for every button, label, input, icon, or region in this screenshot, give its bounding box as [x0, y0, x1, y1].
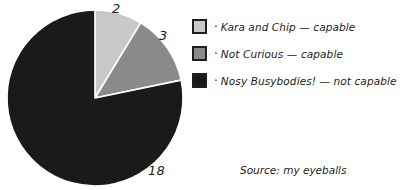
chart-legend: · Kara and Chip — capable · Not Curious … [192, 13, 404, 94]
legend-label: Kara and Chip — capable [221, 21, 356, 33]
legend-bullet-icon: · [214, 21, 218, 33]
pie-value-label-kara-and-chip: 2 [112, 1, 120, 16]
legend-swatch-icon [192, 73, 207, 88]
legend-bullet-icon: · [214, 48, 218, 60]
pie-slice-group [7, 10, 183, 186]
pie-value-label-nosy-busybodies: 18 [148, 163, 165, 178]
legend-bullet-icon: · [214, 75, 218, 87]
legend-item-kara-and-chip[interactable]: · Kara and Chip — capable [192, 13, 404, 40]
source-note: Source: my eyeballs [240, 164, 347, 176]
legend-label: Nosy Busybodies! — not capable [221, 75, 397, 87]
pie-value-label-not-curious: 3 [159, 28, 167, 43]
legend-item-not-curious[interactable]: · Not Curious — capable [192, 40, 404, 67]
pie-chart-figure: capable? 2 3 18 · Kara and Chip — capabl… [0, 0, 404, 190]
legend-swatch-icon [192, 19, 207, 34]
pie-plot-area: 2 3 18 [0, 0, 190, 190]
legend-label: Not Curious — capable [221, 48, 343, 60]
legend-item-nosy-busybodies[interactable]: · Nosy Busybodies! — not capable [192, 67, 404, 94]
legend-swatch-icon [192, 46, 207, 61]
